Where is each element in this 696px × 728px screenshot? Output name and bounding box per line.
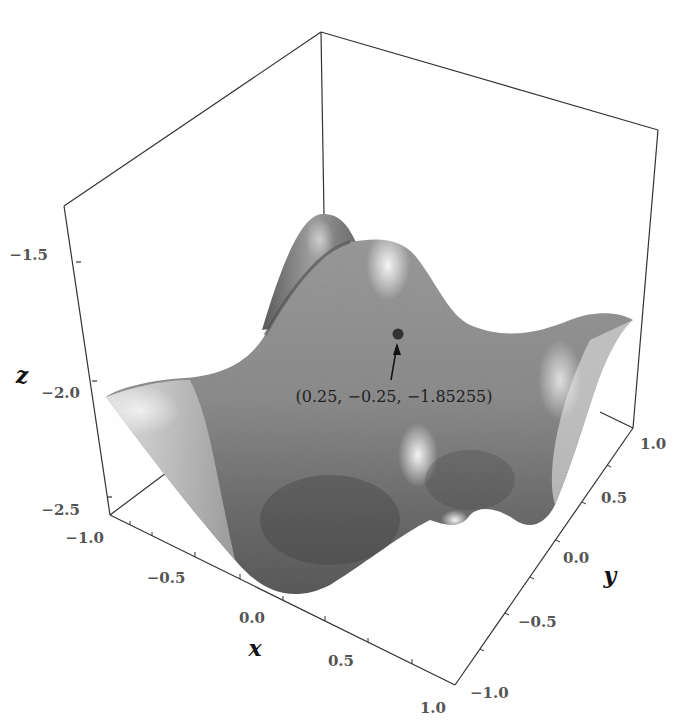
x-tick-label: −1.0 [65,529,104,547]
x-tick-label: 1.0 [420,699,446,717]
x-tick-label: 0.0 [239,609,265,627]
x-tick-label: −0.5 [147,569,186,587]
z-axis: −2.5 −2.0 −1.5 z [9,246,112,519]
z-axis-label: z [15,362,29,388]
y-tick-label: −1.0 [470,684,509,702]
surface-plot: (0.25, −0.25, −1.85255) −2.5 −2.0 −1.5 z… [0,0,696,728]
annotation-label: (0.25, −0.25, −1.85255) [295,387,492,406]
x-axis-label: x [247,635,262,661]
x-tick-label: 0.5 [328,652,354,670]
point-marker [393,329,404,340]
z-tick-label: −1.5 [9,246,48,264]
y-axis-label: y [603,562,619,588]
y-tick-label: 1.0 [640,435,666,453]
y-tick-label: −0.5 [518,613,557,631]
y-tick-label: 0.0 [563,549,589,567]
y-tick-label: 0.5 [601,489,627,507]
z-tick-label: −2.5 [41,501,80,519]
z-tick-label: −2.0 [41,384,80,402]
